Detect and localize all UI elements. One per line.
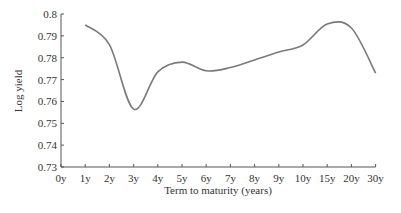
x-tick-label: 5y — [177, 172, 189, 184]
x-tick-label: 9y — [273, 172, 285, 184]
x-tick-label: 20y — [343, 172, 360, 184]
x-tick-label: 1y — [80, 172, 92, 184]
x-tick-label: 10y — [295, 172, 312, 184]
x-tick-label: 6y — [201, 172, 213, 184]
y-axis-title: Log yield — [12, 69, 24, 112]
y-axis-ticks: 0.730.740.750.760.770.780.790.8 — [38, 8, 64, 173]
x-tick-label: 4y — [152, 172, 164, 184]
x-tick-label: 7y — [225, 172, 237, 184]
x-tick-label: 15y — [319, 172, 336, 184]
yield-curve-chart: 0.730.740.750.760.770.780.790.8 0y1y2y3y… — [0, 0, 401, 213]
yield-curve-line — [85, 22, 375, 110]
y-tick-label: 0.74 — [38, 139, 58, 151]
y-tick-label: 0.78 — [38, 52, 58, 64]
x-tick-label: 30y — [367, 172, 384, 184]
x-tick-label: 8y — [249, 172, 261, 184]
y-tick-label: 0.77 — [38, 74, 58, 86]
x-axis-title: Term to maturity (years) — [164, 184, 272, 197]
x-tick-label: 3y — [128, 172, 140, 184]
y-tick-label: 0.75 — [38, 117, 58, 129]
y-tick-label: 0.79 — [38, 30, 58, 42]
x-tick-label: 0y — [56, 172, 68, 184]
y-tick-label: 0.8 — [43, 8, 57, 20]
y-tick-label: 0.76 — [38, 95, 58, 107]
x-tick-label: 2y — [104, 172, 116, 184]
axes — [61, 14, 376, 167]
